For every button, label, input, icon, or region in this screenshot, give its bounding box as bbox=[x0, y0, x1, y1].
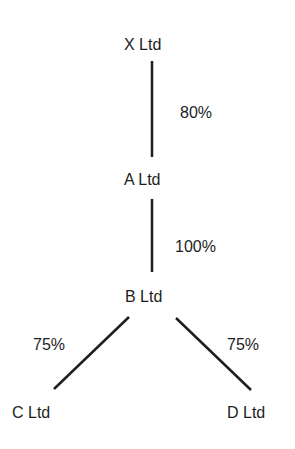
edge-label-b-d: 75% bbox=[227, 336, 259, 354]
edge-label-a-b: 100% bbox=[175, 238, 216, 256]
node-a-ltd: A Ltd bbox=[124, 171, 160, 189]
connector-lines bbox=[0, 0, 295, 449]
edge-b-d bbox=[176, 318, 251, 390]
edge-label-b-c: 75% bbox=[33, 336, 65, 354]
edge-b-c bbox=[54, 317, 129, 389]
node-x-ltd: X Ltd bbox=[124, 36, 161, 54]
edge-label-x-a: 80% bbox=[180, 104, 212, 122]
node-d-ltd: D Ltd bbox=[227, 404, 265, 422]
node-c-ltd: C Ltd bbox=[12, 404, 50, 422]
node-b-ltd: B Ltd bbox=[125, 288, 162, 306]
